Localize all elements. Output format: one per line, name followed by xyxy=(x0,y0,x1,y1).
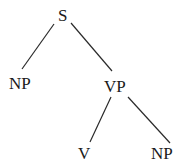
edge-s-vp xyxy=(71,23,112,71)
edge-vp-v xyxy=(90,97,111,142)
node-np-subject: NP xyxy=(9,75,31,92)
node-vp: VP xyxy=(104,78,126,95)
node-s: S xyxy=(58,7,67,24)
node-v: V xyxy=(78,145,90,162)
edge-vp-np xyxy=(128,97,170,143)
edge-s-np xyxy=(22,24,54,69)
node-np-object: NP xyxy=(151,145,173,162)
